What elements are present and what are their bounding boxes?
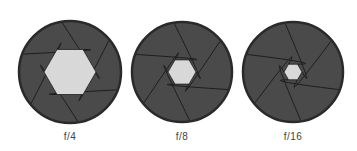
aperture-label-f4: f/4: [40, 131, 100, 142]
aperture-f4-icon: [19, 21, 121, 123]
aperture-label-f8: f/8: [152, 131, 212, 142]
aperture-f8-icon: [132, 22, 232, 122]
aperture-diagram: [0, 0, 357, 130]
aperture-label-f16: f/16: [263, 131, 323, 142]
aperture-f16-icon: [243, 22, 343, 122]
